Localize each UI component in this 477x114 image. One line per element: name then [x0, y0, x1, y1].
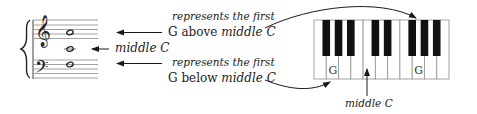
music-diagram: 𝄞 𝄢 represents the first G a [0, 0, 477, 114]
key-label-g: G [328, 64, 337, 77]
bass-clef-icon: 𝄢 [35, 57, 49, 81]
grand-staff: 𝄞 𝄢 [21, 15, 98, 81]
black-key [335, 20, 343, 56]
black-key [433, 20, 441, 56]
middle-c-keyboard-label: middle C [345, 97, 393, 109]
black-key [322, 20, 330, 56]
g-above-line1: represents the first [172, 10, 275, 22]
g-above-line2: G above middle C [168, 25, 276, 39]
g-below-middle-c: middle C [221, 71, 276, 85]
black-key [347, 20, 355, 56]
treble-clef-icon: 𝄞 [35, 15, 51, 48]
black-key [408, 20, 416, 56]
black-key [421, 20, 429, 56]
key-label-g: G [414, 64, 423, 77]
note-middle-c [64, 46, 76, 52]
black-key [384, 20, 392, 56]
g-above-text: G above [168, 25, 221, 39]
black-key [372, 20, 380, 56]
g-below-line2: G below middle C [168, 71, 276, 85]
g-below-line1: represents the first [172, 56, 275, 68]
brace-icon [21, 20, 30, 78]
g-above-middle-c: middle C [221, 25, 276, 39]
middle-c-staff-label: middle C [115, 41, 170, 55]
g-below-text: G below [168, 71, 221, 85]
note-g-above [66, 29, 74, 35]
